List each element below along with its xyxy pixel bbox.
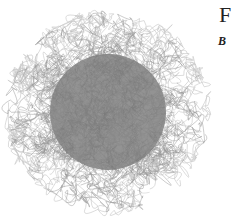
tangle-plot — [0, 0, 231, 219]
panel-subtitle-partial: B — [218, 34, 226, 49]
panel-title-partial: F — [219, 4, 231, 26]
